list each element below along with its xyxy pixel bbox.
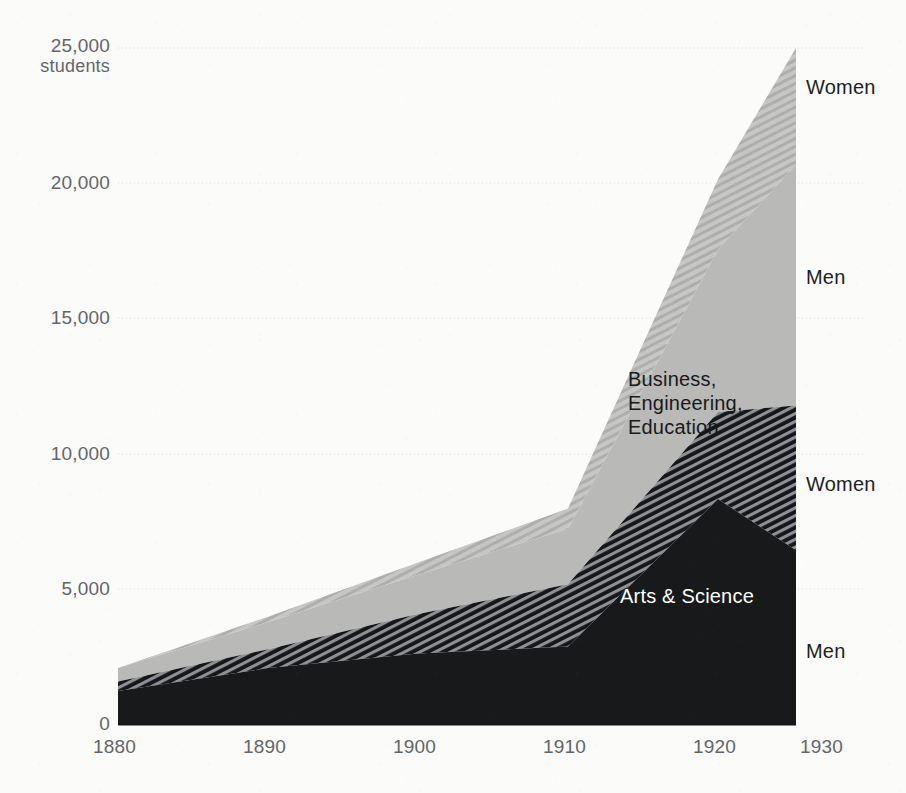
y-tick-15000: 15,000	[38, 307, 110, 329]
x-tick-1910: 1910	[543, 736, 586, 758]
x-tick-1890: 1890	[243, 736, 286, 758]
y-tick-5000: 5,000	[38, 578, 110, 600]
annotation-arts-science: Arts & Science	[620, 584, 754, 608]
x-tick-1920: 1920	[693, 736, 736, 758]
x-tick-1900: 1900	[393, 736, 436, 758]
x-tick-1930: 1930	[800, 736, 843, 758]
series-label-arts-science-women: Women	[806, 473, 876, 496]
y-tick-25000-unit: students	[40, 56, 110, 76]
series-label-bee-men: Men	[806, 266, 846, 289]
series-label-arts-science-men: Men	[806, 640, 846, 663]
y-tick-20000: 20,000	[38, 172, 110, 194]
y-tick-25000: 25,000students	[38, 36, 110, 76]
x-tick-1880: 1880	[93, 736, 136, 758]
stacked-area-plot	[0, 0, 906, 793]
y-tick-25000-value: 25,000	[51, 35, 110, 56]
y-tick-10000: 10,000	[38, 443, 110, 465]
annotation-business-engineering-education: Business, Engineering, Education	[628, 367, 743, 439]
series-label-bee-women: Women	[806, 76, 876, 99]
chart-container: 25,000students 20,000 15,000 10,000 5,00…	[0, 0, 906, 793]
y-tick-0: 0	[38, 713, 110, 735]
